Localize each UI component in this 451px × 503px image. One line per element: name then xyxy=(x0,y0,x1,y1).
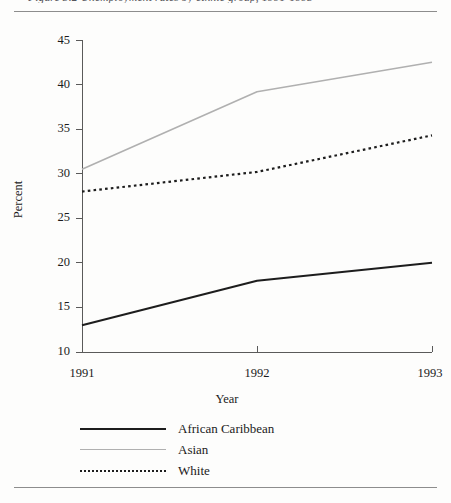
chart-tick-marks xyxy=(76,40,432,352)
y-tick-label-15: 15 xyxy=(40,299,70,314)
top-divider-rule xyxy=(14,11,437,12)
solid-light-line-icon xyxy=(80,444,166,456)
chart-legend: African Caribbean Asian White xyxy=(80,418,380,481)
legend-item-white: White xyxy=(80,460,380,481)
y-axis-title: Percent xyxy=(11,170,26,230)
line-chart: 45 40 35 30 25 20 15 10 1991 1992 1993 P… xyxy=(0,14,451,484)
legend-item-african-caribbean: African Caribbean xyxy=(80,418,380,439)
chart-series-group xyxy=(82,62,432,325)
y-tick-label-20: 20 xyxy=(40,255,70,270)
y-tick-label-35: 35 xyxy=(40,121,70,136)
legend-label-african-caribbean: African Caribbean xyxy=(166,421,274,437)
series-line-african-caribbean xyxy=(82,263,432,325)
figure-caption-sliver: Figure 3.2 Unemployment rates by ethnic … xyxy=(28,0,428,3)
y-tick-label-30: 30 xyxy=(40,166,70,181)
bottom-divider-rule xyxy=(14,487,437,488)
x-tick-label-1991: 1991 xyxy=(52,366,112,381)
x-tick-label-1993: 1993 xyxy=(400,366,451,381)
y-tick-label-10: 10 xyxy=(40,344,70,359)
legend-label-asian: Asian xyxy=(166,442,208,458)
x-tick-label-1992: 1992 xyxy=(227,366,287,381)
y-tick-label-25: 25 xyxy=(40,210,70,225)
figure-page: Figure 3.2 Unemployment rates by ethnic … xyxy=(0,0,451,503)
chart-axes xyxy=(82,40,432,352)
series-line-asian xyxy=(82,62,432,169)
y-tick-label-40: 40 xyxy=(40,77,70,92)
y-tick-label-45: 45 xyxy=(40,33,70,48)
series-line-white xyxy=(82,135,432,191)
solid-dark-line-icon xyxy=(80,423,166,435)
legend-label-white: White xyxy=(166,463,210,479)
dotted-dark-line-icon xyxy=(80,465,166,477)
legend-item-asian: Asian xyxy=(80,439,380,460)
x-axis-title: Year xyxy=(197,392,257,407)
